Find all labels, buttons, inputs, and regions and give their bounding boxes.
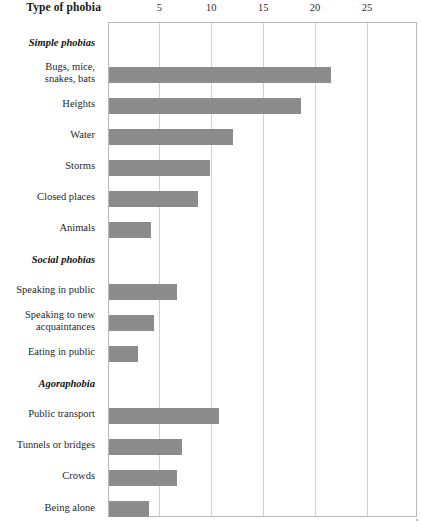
category-label-line: Crowds [0, 470, 95, 482]
category-label-line: Speaking to new [0, 309, 95, 321]
category-label: Heights [0, 98, 101, 110]
category-label: Public transport [0, 408, 101, 420]
category-label-line: Closed places [0, 191, 95, 203]
x-tick-label-20: 20 [310, 2, 321, 13]
category-label-line: acquaintances [0, 321, 95, 333]
category-label-line: Being alone [0, 502, 95, 514]
category-label: Speaking to newacquaintances [0, 309, 101, 332]
group-label-simple-phobias: Simple phobias [0, 37, 101, 49]
category-label-line: Tunnels or bridges [0, 439, 95, 451]
scan-artifact-mark [416, 519, 418, 521]
category-label: Animals [0, 222, 101, 234]
category-label-line: snakes, bats [0, 73, 95, 85]
bar [109, 222, 152, 238]
bar [109, 129, 234, 145]
bar [109, 408, 219, 424]
bar [109, 315, 155, 331]
category-label-line: Storms [0, 160, 95, 172]
category-label: Crowds [0, 470, 101, 482]
bar [109, 160, 211, 176]
category-label: Bugs, mice,snakes, bats [0, 61, 101, 84]
bar [109, 346, 138, 362]
x-axis-tick-labels: 510152025 [0, 2, 421, 18]
category-label: Tunnels or bridges [0, 439, 101, 451]
bars-layer [109, 23, 417, 516]
bar [109, 439, 183, 455]
category-label: Storms [0, 160, 101, 172]
category-label: Being alone [0, 502, 101, 514]
category-label: Water [0, 129, 101, 141]
bar [109, 191, 198, 207]
category-label: Closed places [0, 191, 101, 203]
x-tick-label-15: 15 [258, 2, 269, 13]
x-tick-label-10: 10 [206, 2, 217, 13]
category-label: Eating in public [0, 346, 101, 358]
category-label-line: Eating in public [0, 346, 95, 358]
group-label-agoraphobia: Agoraphobia [0, 378, 101, 390]
category-label-line: Bugs, mice, [0, 61, 95, 73]
category-label-line: Public transport [0, 408, 95, 420]
category-label-line: Heights [0, 98, 95, 110]
bar [109, 284, 178, 300]
plot-area [108, 22, 418, 517]
bar [109, 501, 149, 517]
category-label: Speaking in public [0, 284, 101, 296]
x-tick-label-5: 5 [157, 2, 162, 13]
category-label-line: Speaking in public [0, 284, 95, 296]
bar [109, 67, 331, 83]
phobia-bar-chart: Type of phobia 510152025 Simple phobiasB… [0, 0, 421, 527]
bar [109, 98, 301, 114]
x-tick-label-25: 25 [362, 2, 373, 13]
group-label-social-phobias: Social phobias [0, 254, 101, 266]
category-label-line: Water [0, 129, 95, 141]
bar [109, 470, 178, 486]
category-label-line: Animals [0, 222, 95, 234]
category-label-column: Simple phobiasBugs, mice,snakes, batsHei… [0, 22, 101, 517]
